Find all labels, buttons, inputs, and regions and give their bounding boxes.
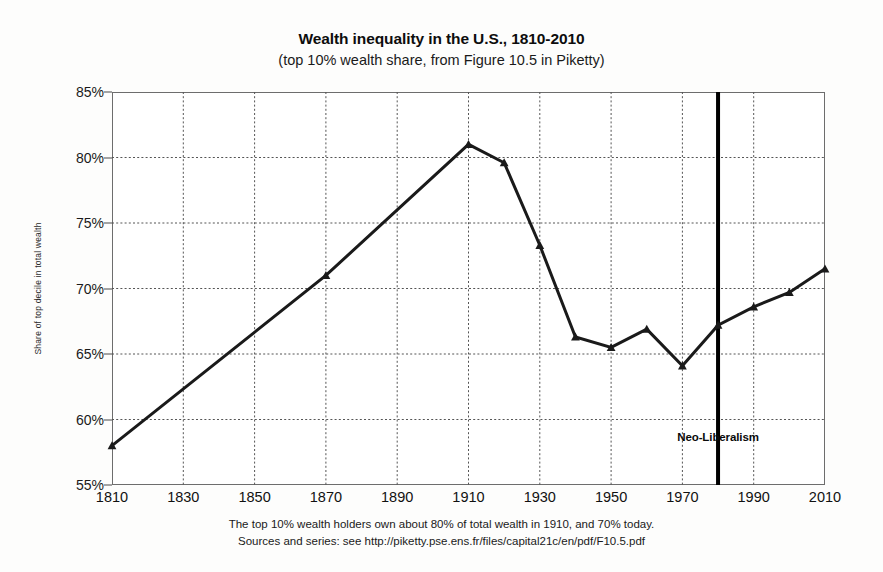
x-axis-tick-label: 1850 <box>238 489 270 505</box>
neoliberalism-annotation: Neo-Liberalism <box>677 431 759 443</box>
y-axis-tick-mark <box>104 92 112 93</box>
y-axis-tick-mark <box>104 223 112 224</box>
footnote-line-2: Sources and series: see http://piketty.p… <box>0 533 883 550</box>
plot-area <box>112 92 825 485</box>
title-block: Wealth inequality in the U.S., 1810-2010… <box>0 30 883 69</box>
chart-figure: Wealth inequality in the U.S., 1810-2010… <box>0 0 883 572</box>
y-axis-tick-mark <box>104 288 112 289</box>
footnote-line-1: The top 10% wealth holders own about 80%… <box>0 516 883 533</box>
y-axis-tick-label: 60% <box>76 412 104 428</box>
footnote-block: The top 10% wealth holders own about 80%… <box>0 516 883 549</box>
y-axis-title: Share of top decile in total wealth <box>30 92 46 485</box>
x-axis-tick-label: 1890 <box>381 489 413 505</box>
x-axis-tick-label: 2010 <box>809 489 841 505</box>
x-axis-tick-label: 1970 <box>666 489 698 505</box>
chart-title: Wealth inequality in the U.S., 1810-2010 <box>0 30 883 49</box>
y-axis-tick-mark <box>104 354 112 355</box>
y-axis-tick-label: 80% <box>76 150 104 166</box>
y-axis-tick-mark <box>104 485 112 486</box>
chart-subtitle: (top 10% wealth share, from Figure 10.5 … <box>0 51 883 69</box>
x-axis-tick-label: 1910 <box>452 489 484 505</box>
data-point-markers <box>112 92 825 485</box>
y-axis-tick-label: 65% <box>76 346 104 362</box>
y-axis-tick-label: 70% <box>76 281 104 297</box>
x-axis-tick-label: 1830 <box>167 489 199 505</box>
x-axis-tick-label: 1810 <box>96 489 128 505</box>
y-axis-tick-mark <box>104 419 112 420</box>
x-axis-tick-label: 1930 <box>524 489 556 505</box>
x-axis-tick-label: 1950 <box>595 489 627 505</box>
y-axis-tick-label: 85% <box>76 84 104 100</box>
y-axis-tick-label: 75% <box>76 215 104 231</box>
x-axis-tick-label: 1870 <box>310 489 342 505</box>
y-axis-tick-labels: 55%60%65%70%75%80%85% <box>58 92 104 485</box>
y-axis-tick-mark <box>104 157 112 158</box>
x-axis-tick-label: 1990 <box>738 489 770 505</box>
x-axis-tick-labels: 1810183018501870189019101930195019701990… <box>112 489 825 511</box>
y-axis-tick-marks <box>104 92 112 485</box>
